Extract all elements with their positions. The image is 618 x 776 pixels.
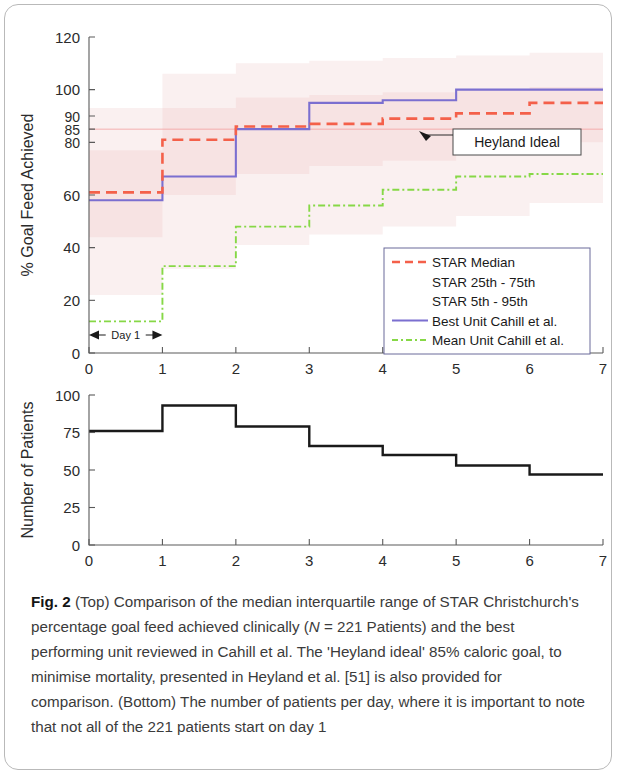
x-tick-label-top: 6 bbox=[525, 360, 533, 377]
x-tick-label-bottom: 2 bbox=[232, 552, 240, 569]
top-chart-svg: 020406080859010012001234567% Goal Feed A… bbox=[5, 5, 612, 377]
heyland-ideal-label-text: Heyland Ideal bbox=[474, 134, 560, 150]
y-tick-label-top: 40 bbox=[63, 239, 80, 256]
y-tick-label-top: 0 bbox=[72, 345, 80, 362]
top-chart-goal-feed: 020406080859010012001234567% Goal Feed A… bbox=[5, 5, 612, 377]
day1-arrow-left-icon bbox=[89, 331, 99, 340]
patients-step-line bbox=[89, 406, 603, 475]
x-tick-label-bottom: 1 bbox=[158, 552, 166, 569]
x-tick-label-bottom: 7 bbox=[599, 552, 607, 569]
figure-caption-text: (Top) Comparison of the median interquar… bbox=[31, 593, 585, 735]
day1-annotation: Day 1 bbox=[89, 327, 162, 343]
x-tick-label-top: 2 bbox=[232, 360, 240, 377]
legend-item-label: STAR 5th - 95th bbox=[432, 294, 528, 309]
day1-label-text: Day 1 bbox=[111, 329, 140, 341]
x-tick-label-bottom: 6 bbox=[525, 552, 533, 569]
x-tick-label-top: 4 bbox=[379, 360, 387, 377]
bottom-chart-svg: 025507510001234567Number of PatientsDays… bbox=[5, 377, 612, 577]
x-tick-label-top: 1 bbox=[158, 360, 166, 377]
y-tick-label-top: 20 bbox=[63, 292, 80, 309]
chart-legend: STAR MedianSTAR 25th - 75thSTAR 5th - 95… bbox=[384, 248, 590, 354]
x-tick-label-bottom: 5 bbox=[452, 552, 460, 569]
legend-item: STAR 25th - 75th bbox=[432, 275, 535, 290]
y-tick-label-bottom: 75 bbox=[63, 424, 80, 441]
x-tick-label-top: 7 bbox=[599, 360, 607, 377]
x-tick-label-top: 5 bbox=[452, 360, 460, 377]
day1-arrow-right-icon bbox=[152, 331, 162, 340]
bottom-chart-patients: 025507510001234567Number of PatientsDays… bbox=[5, 377, 612, 577]
axes-bottom: 025507510001234567 bbox=[55, 387, 607, 570]
legend-item-label: Mean Unit Cahill et al. bbox=[432, 333, 564, 348]
figure-caption: Fig. 2 (Top) Comparison of the median in… bbox=[31, 589, 587, 739]
legend-item: STAR 5th - 95th bbox=[432, 294, 528, 309]
x-tick-label-bottom: 0 bbox=[85, 552, 93, 569]
legend-item-label: STAR 25th - 75th bbox=[432, 275, 535, 290]
y-tick-label-top: 90 bbox=[64, 109, 80, 125]
x-tick-label-top: 0 bbox=[85, 360, 93, 377]
y-tick-label-bottom: 100 bbox=[55, 387, 80, 404]
y-tick-label-bottom: 0 bbox=[72, 537, 80, 554]
x-tick-label-bottom: 3 bbox=[305, 552, 313, 569]
y-axis-label-top: % Goal Feed Achieved bbox=[19, 114, 36, 277]
figure-frame: 020406080859010012001234567% Goal Feed A… bbox=[4, 4, 612, 770]
y-tick-label-top: 60 bbox=[63, 187, 80, 204]
y-tick-label-bottom: 50 bbox=[63, 462, 80, 479]
y-tick-label-top: 120 bbox=[55, 29, 80, 46]
y-tick-label-top: 100 bbox=[55, 81, 80, 98]
y-tick-label-bottom: 25 bbox=[63, 499, 80, 516]
figure-label: Fig. 2 bbox=[31, 593, 71, 610]
legend-item-label: Best Unit Cahill et al. bbox=[432, 314, 557, 329]
x-tick-label-top: 3 bbox=[305, 360, 313, 377]
x-tick-label-bottom: 4 bbox=[379, 552, 387, 569]
axis-lines-bottom bbox=[89, 395, 603, 545]
y-axis-label-bottom: Number of Patients bbox=[19, 402, 36, 539]
legend-item-label: STAR Median bbox=[432, 255, 515, 270]
